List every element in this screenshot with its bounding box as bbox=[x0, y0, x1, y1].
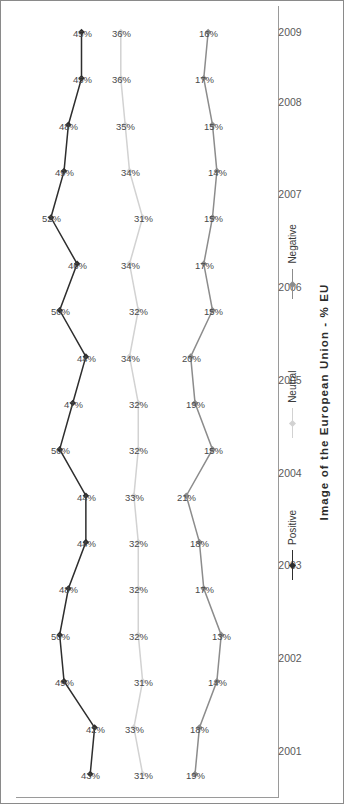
data-label-positive-15: 45% bbox=[73, 74, 92, 85]
data-label-neutral-3: 32% bbox=[129, 631, 148, 642]
data-label-neutral-8: 32% bbox=[129, 399, 148, 410]
data-label-positive-10: 50% bbox=[51, 306, 70, 317]
data-label-positive-12: 52% bbox=[42, 214, 61, 225]
data-label-positive-2: 49% bbox=[55, 677, 74, 688]
data-label-neutral-13: 34% bbox=[121, 167, 140, 178]
data-label-positive-13: 49% bbox=[55, 167, 74, 178]
data-label-positive-1: 42% bbox=[86, 724, 105, 735]
data-label-negative-9: 20% bbox=[182, 353, 201, 364]
data-label-negative-11: 17% bbox=[195, 260, 214, 271]
data-label-negative-0: 19% bbox=[186, 770, 205, 781]
data-label-negative-10: 15% bbox=[204, 306, 223, 317]
data-label-positive-6: 44% bbox=[77, 492, 96, 503]
data-label-negative-8: 19% bbox=[186, 399, 205, 410]
data-label-positive-5: 44% bbox=[77, 538, 96, 549]
data-label-neutral-6: 33% bbox=[125, 492, 144, 503]
data-label-negative-16: 16% bbox=[199, 28, 218, 39]
chart-frame: 43%42%49%50%48%44%44%50%47%44%50%46%52%4… bbox=[0, 0, 344, 804]
y-axis-line bbox=[16, 797, 278, 798]
chart-legend: Positive Neutral Negative bbox=[284, 0, 300, 804]
data-label-neutral-7: 32% bbox=[129, 445, 148, 456]
legend-label-neutral: Neutral bbox=[287, 371, 298, 403]
data-label-neutral-9: 34% bbox=[121, 353, 140, 364]
data-label-neutral-10: 32% bbox=[129, 306, 148, 317]
data-label-neutral-14: 35% bbox=[116, 121, 135, 132]
data-label-negative-14: 15% bbox=[204, 121, 223, 132]
data-label-positive-8: 47% bbox=[64, 399, 83, 410]
data-label-negative-4: 17% bbox=[195, 585, 214, 596]
data-label-negative-6: 21% bbox=[177, 492, 196, 503]
data-label-neutral-0: 31% bbox=[134, 770, 153, 781]
plot-area: 43%42%49%50%48%44%44%50%47%44%50%46%52%4… bbox=[16, 6, 278, 798]
legend-item-positive[interactable]: Positive bbox=[287, 510, 298, 580]
data-label-negative-7: 15% bbox=[204, 445, 223, 456]
data-label-positive-3: 50% bbox=[51, 631, 70, 642]
data-label-negative-12: 15% bbox=[204, 214, 223, 225]
data-label-neutral-2: 31% bbox=[134, 677, 153, 688]
chart-title: Image of the European Union - % EU bbox=[318, 0, 330, 804]
legend-item-negative[interactable]: Negative bbox=[287, 224, 298, 298]
data-label-neutral-16: 36% bbox=[112, 28, 131, 39]
data-label-positive-4: 48% bbox=[59, 585, 78, 596]
data-label-neutral-5: 32% bbox=[129, 538, 148, 549]
x-axis-line bbox=[278, 6, 279, 798]
figure: 43%42%49%50%48%44%44%50%47%44%50%46%52%4… bbox=[0, 0, 344, 804]
data-label-neutral-4: 32% bbox=[129, 585, 148, 596]
data-label-positive-0: 43% bbox=[81, 770, 100, 781]
data-label-negative-15: 17% bbox=[195, 74, 214, 85]
legend-item-neutral[interactable]: Neutral bbox=[287, 371, 298, 438]
legend-label-positive: Positive bbox=[287, 510, 298, 545]
data-label-positive-11: 46% bbox=[68, 260, 87, 271]
legend-swatch-neutral bbox=[292, 408, 293, 438]
data-label-negative-13: 14% bbox=[208, 167, 227, 178]
data-label-negative-3: 13% bbox=[212, 631, 231, 642]
data-label-positive-14: 48% bbox=[59, 121, 78, 132]
data-label-neutral-11: 34% bbox=[121, 260, 140, 271]
data-label-negative-2: 14% bbox=[208, 677, 227, 688]
rotated-figure: 43%42%49%50%48%44%44%50%47%44%50%46%52%4… bbox=[0, 0, 344, 804]
data-label-neutral-12: 31% bbox=[134, 214, 153, 225]
data-label-positive-9: 44% bbox=[77, 353, 96, 364]
legend-swatch-negative bbox=[292, 269, 293, 299]
data-label-positive-16: 45% bbox=[73, 28, 92, 39]
data-label-negative-1: 18% bbox=[190, 724, 209, 735]
data-label-neutral-1: 33% bbox=[125, 724, 144, 735]
legend-swatch-positive bbox=[292, 550, 293, 580]
data-label-negative-5: 18% bbox=[190, 538, 209, 549]
legend-label-negative: Negative bbox=[287, 224, 298, 263]
data-label-positive-7: 50% bbox=[51, 445, 70, 456]
data-label-neutral-15: 36% bbox=[112, 74, 131, 85]
